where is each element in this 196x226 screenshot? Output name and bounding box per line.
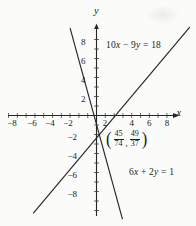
close-paren: ) [142,129,148,151]
plot-canvas [0,0,196,226]
open-paren: ( [106,129,112,151]
y-fraction-denominator: 37 [130,140,140,149]
graph-figure: x y 10x − 9y = 18 6x + 2y = 1 ( 45 74 , … [0,0,196,226]
y-tick-label: −4 [53,151,77,162]
eq1-mid: − 9 [120,40,136,50]
intersection-point-label: ( 45 74 , 49 37 ) [106,130,147,150]
x-tick-label: 8 [157,118,177,129]
eq2-rhs: = 1 [158,167,174,177]
eq1-rhs: = 18 [140,40,161,50]
eq2-mid: + 2 [138,167,154,177]
y-tick-label: 8 [62,37,86,48]
y-tick-label: −8 [53,189,77,200]
x-axis-letter: x [177,107,182,118]
y-tick-label: −2 [53,132,77,143]
y-tick-label: 6 [62,56,86,67]
x-tick-label: 2 [95,118,115,129]
y-axis-letter: y [94,5,99,16]
equation-label-line2: 6x + 2y = 1 [129,167,174,178]
comma-separator: , [126,138,128,148]
x-fraction-denominator: 74 [114,140,124,149]
equation-label-line1: 10x − 9y = 18 [106,40,161,51]
eq1-coef: 10 [106,40,116,50]
y-fraction: 49 37 [129,130,141,149]
x-fraction: 45 74 [113,130,125,149]
y-tick-label: 2 [62,94,86,105]
x-tick-label: −6 [22,118,42,129]
y-tick-label: −6 [53,170,77,181]
y-tick-label: 4 [62,75,86,86]
x-tick-label: −2 [58,118,78,129]
x-tick-label: −8 [2,118,22,129]
x-tick-label: −4 [40,118,60,129]
y-axis-arrow-icon [94,24,99,30]
